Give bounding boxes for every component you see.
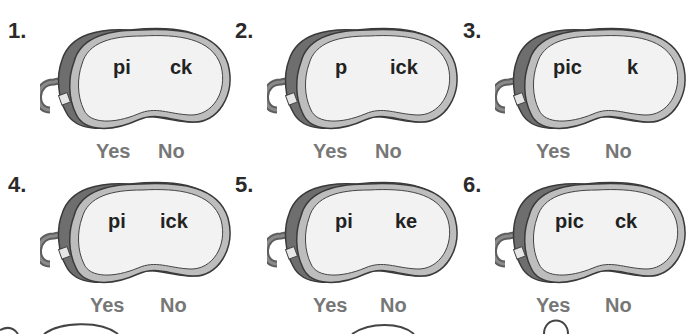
sleep-mask-illustration [495,20,685,130]
sleep-mask-illustration [40,20,230,130]
item-number: 2. [235,18,253,44]
yes-option[interactable]: Yes [96,140,130,163]
no-option[interactable]: No [380,294,407,317]
word-part-right: ick [390,56,418,79]
exercise-item-2: 2. p ick Yes No [235,18,455,168]
item-number: 5. [235,172,253,198]
no-option[interactable]: No [605,140,632,163]
word-part-left: pi [335,210,353,233]
word-part-right: ick [160,210,188,233]
sleep-mask-illustration [495,174,685,284]
exercise-item-6: 6. pic ck Yes No [463,172,683,322]
item-number: 1. [8,18,26,44]
no-option[interactable]: No [605,294,632,317]
yes-option[interactable]: Yes [313,140,347,163]
item-number: 3. [463,18,481,44]
word-part-right: k [627,56,638,79]
word-part-left: pi [113,56,131,79]
exercise-item-3: 3. pic k Yes No [463,18,683,168]
word-part-right: ke [395,210,417,233]
yes-option[interactable]: Yes [536,140,570,163]
exercise-item-1: 1. pi ck Yes No [8,18,228,168]
yes-option[interactable]: Yes [313,294,347,317]
word-part-right: ck [170,56,192,79]
no-option[interactable]: No [160,294,187,317]
item-number: 4. [8,172,26,198]
no-option[interactable]: No [375,140,402,163]
word-part-left: pic [553,56,582,79]
word-part-left: p [335,56,347,79]
sleep-mask-illustration [40,174,230,284]
yes-option[interactable]: Yes [536,294,570,317]
sleep-mask-illustration [267,20,457,130]
sleep-mask-illustration [267,174,457,284]
word-part-left: pic [555,210,584,233]
item-number: 6. [463,172,481,198]
word-part-left: pi [108,210,126,233]
word-part-right: ck [615,210,637,233]
no-option[interactable]: No [158,140,185,163]
exercise-item-4: 4. pi ick Yes No [8,172,228,322]
yes-option[interactable]: Yes [90,294,124,317]
exercise-item-5: 5. pi ke Yes No [235,172,455,322]
